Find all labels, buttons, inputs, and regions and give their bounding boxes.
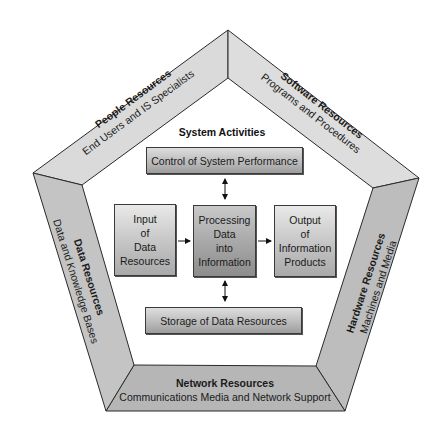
output-of-information-products-box: Output of Information Products bbox=[274, 205, 336, 277]
input-of-data-resources-box: Input of Data Resources bbox=[114, 204, 176, 276]
control-label: Control of System Performance bbox=[151, 154, 297, 168]
network-resources-title: Network Resources bbox=[176, 377, 274, 389]
network-resources-subtitle: Communications Media and Network Support bbox=[119, 391, 330, 403]
control-of-system-performance-box: Control of System Performance bbox=[146, 147, 303, 174]
information-system-diagram: People Resources End Users and IS Specia… bbox=[0, 0, 444, 434]
storage-of-data-resources-box: Storage of Data Resources bbox=[145, 307, 302, 334]
storage-label: Storage of Data Resources bbox=[160, 314, 287, 328]
system-activities-title: System Activities bbox=[0, 126, 444, 138]
input-label: Input of Data Resources bbox=[120, 212, 170, 268]
processing-data-box: Processing Data into Information bbox=[193, 205, 256, 277]
processing-label: Processing Data into Information bbox=[198, 213, 251, 269]
output-label: Output of Information Products bbox=[279, 213, 332, 269]
